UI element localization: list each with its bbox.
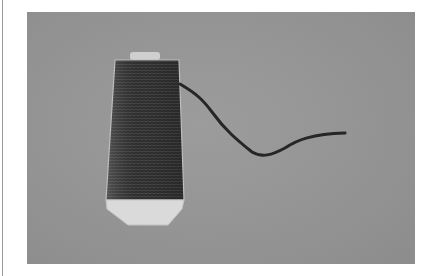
loose-thread-strand xyxy=(180,84,345,155)
thread-spool-illustration xyxy=(27,12,415,264)
left-border-rule xyxy=(2,0,3,276)
spool-cap xyxy=(130,52,160,60)
spool-base xyxy=(106,200,184,225)
photo-thread-spool xyxy=(27,12,415,264)
